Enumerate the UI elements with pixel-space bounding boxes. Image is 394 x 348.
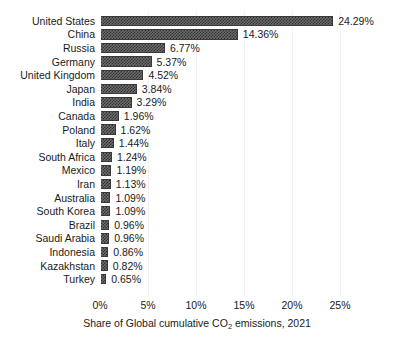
- bar-value-label: 1.44%: [119, 138, 149, 149]
- category-label: United States: [32, 15, 95, 26]
- bar-container: 1.44%: [100, 138, 114, 148]
- bar-row: Germany5.37%: [100, 55, 340, 69]
- bar: [100, 56, 152, 66]
- bar-container: 1.62%: [100, 124, 116, 134]
- bar-row: Canada1.96%: [100, 109, 340, 123]
- bar-container: 14.36%: [100, 29, 238, 39]
- bar: [100, 233, 109, 243]
- bar-value-label: 1.13%: [116, 178, 146, 189]
- bar-value-label: 1.09%: [115, 192, 145, 203]
- bar-row: Saudi Arabia0.96%: [100, 232, 340, 246]
- bar-container: 1.24%: [100, 152, 112, 162]
- bar-row: Mexico1.19%: [100, 164, 340, 178]
- bar-row: United Kingdom4.52%: [100, 68, 340, 82]
- bar-value-label: 0.96%: [114, 219, 144, 230]
- bar-row: Australia1.09%: [100, 191, 340, 205]
- x-axis-label-before: Share of Global cumulative CO: [83, 317, 228, 329]
- category-label: Turkey: [63, 274, 95, 285]
- bar-container: 1.09%: [100, 206, 110, 216]
- bar-container: 3.84%: [100, 84, 137, 94]
- bar-container: 0.86%: [100, 247, 108, 257]
- x-axis-label-subscript: 2: [228, 322, 232, 331]
- bar-value-label: 1.96%: [124, 110, 154, 121]
- bar-container: 0.96%: [100, 220, 109, 230]
- category-label: Japan: [66, 83, 95, 94]
- bar-value-label: 24.29%: [338, 15, 374, 26]
- category-label: Russia: [63, 42, 95, 53]
- bar: [100, 206, 110, 216]
- bar: [100, 43, 165, 53]
- bar: [100, 192, 110, 202]
- category-label: Kazakhstan: [40, 260, 95, 271]
- bar-container: 24.29%: [100, 16, 333, 26]
- bar-value-label: 0.82%: [113, 260, 143, 271]
- bar: [100, 179, 111, 189]
- x-axis-label: Share of Global cumulative CO2 emissions…: [0, 317, 394, 331]
- bar: [100, 97, 132, 107]
- bar-row: Kazakhstan0.82%: [100, 259, 340, 273]
- bar-row: Japan3.84%: [100, 82, 340, 96]
- bar-container: 5.37%: [100, 56, 152, 66]
- plot-area: United States24.29%China14.36%Russia6.77…: [100, 12, 340, 296]
- bar-value-label: 1.09%: [115, 206, 145, 217]
- bar-row: Poland1.62%: [100, 123, 340, 137]
- bar-container: 1.96%: [100, 111, 119, 121]
- bar-value-label: 4.52%: [148, 70, 178, 81]
- bar-value-label: 5.37%: [157, 56, 187, 67]
- bar-container: 6.77%: [100, 43, 165, 53]
- bar-row: Indonesia0.86%: [100, 245, 340, 259]
- bar-row: Brazil0.96%: [100, 218, 340, 232]
- bar-container: 1.19%: [100, 165, 111, 175]
- x-axis-label-after: emissions, 2021: [232, 317, 311, 329]
- bar: [100, 124, 116, 134]
- category-label: South Africa: [38, 151, 95, 162]
- bar-row: India3.29%: [100, 96, 340, 110]
- x-axis-tick-labels: 0%5%10%15%20%25%: [100, 299, 340, 313]
- x-tick-label: 5%: [140, 299, 155, 311]
- bar-value-label: 6.77%: [170, 42, 200, 53]
- bar-value-label: 14.36%: [243, 29, 279, 40]
- bar: [100, 247, 108, 257]
- bar: [100, 29, 238, 39]
- bar: [100, 260, 108, 270]
- gridline: [340, 12, 341, 296]
- category-label: Iran: [77, 178, 95, 189]
- bar-value-label: 0.86%: [113, 246, 143, 257]
- bar: [100, 220, 109, 230]
- x-tick-label: 25%: [329, 299, 350, 311]
- bar-row: Italy1.44%: [100, 136, 340, 150]
- y-axis-line: [100, 12, 101, 296]
- category-label: Brazil: [69, 219, 95, 230]
- bar-row: Turkey0.65%: [100, 272, 340, 286]
- bar-value-label: 1.19%: [116, 165, 146, 176]
- category-label: United Kingdom: [20, 70, 95, 81]
- bar-container: 3.29%: [100, 97, 132, 107]
- x-tick-label: 0%: [92, 299, 107, 311]
- bar-container: 4.52%: [100, 70, 143, 80]
- bar-container: 1.09%: [100, 192, 110, 202]
- bar: [100, 111, 119, 121]
- bar-row: Iran1.13%: [100, 177, 340, 191]
- category-label: Germany: [52, 56, 95, 67]
- category-label: China: [68, 29, 95, 40]
- bar-value-label: 1.62%: [121, 124, 151, 135]
- x-tick-label: 15%: [233, 299, 254, 311]
- bar-value-label: 0.96%: [114, 233, 144, 244]
- bar-value-label: 0.65%: [111, 274, 141, 285]
- bar: [100, 138, 114, 148]
- bar-container: 1.13%: [100, 179, 111, 189]
- x-tick-label: 10%: [185, 299, 206, 311]
- bar: [100, 152, 112, 162]
- bar-value-label: 3.29%: [137, 97, 167, 108]
- bar-rows: United States24.29%China14.36%Russia6.77…: [100, 12, 340, 296]
- bar-chart: United States24.29%China14.36%Russia6.77…: [0, 0, 394, 348]
- bar-value-label: 3.84%: [142, 83, 172, 94]
- category-label: Australia: [54, 192, 95, 203]
- bar-row: South Korea1.09%: [100, 204, 340, 218]
- category-label: Saudi Arabia: [35, 233, 95, 244]
- bar: [100, 16, 333, 26]
- x-tick-label: 20%: [281, 299, 302, 311]
- category-label: Canada: [58, 110, 95, 121]
- bar-value-label: 1.24%: [117, 151, 147, 162]
- bar-row: Russia6.77%: [100, 41, 340, 55]
